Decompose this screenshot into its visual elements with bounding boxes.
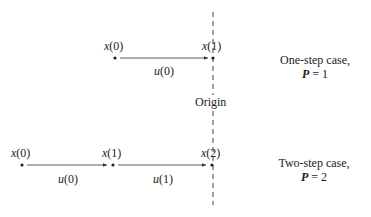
label-x1-two-step: x(1) xyxy=(102,147,121,159)
caption-one-step-line2: P = 1 xyxy=(260,67,370,81)
label-x0-one-step: x(0) xyxy=(104,40,123,52)
point-x1-one-step xyxy=(211,56,214,59)
caption-two-step-line2: P = 2 xyxy=(259,170,369,184)
label-u0-two-step: u(0) xyxy=(58,173,78,185)
label-u0-one-step: u(0) xyxy=(154,65,174,77)
origin-label: Origin xyxy=(195,95,226,109)
caption-two-step: Two-step case, P = 2 xyxy=(259,156,369,184)
label-u1-two-step: u(1) xyxy=(153,173,173,185)
point-x0-two-step xyxy=(20,163,23,166)
point-x1-two-step xyxy=(111,163,114,166)
label-x1-one-step: x(1) xyxy=(202,40,221,52)
point-x2-two-step xyxy=(210,163,213,166)
point-x0-one-step xyxy=(113,56,116,59)
diagram-canvas xyxy=(0,0,371,217)
label-x2-two-step: x(2) xyxy=(201,147,220,159)
label-x0-two-step: x(0) xyxy=(11,147,30,159)
caption-two-step-line1: Two-step case, xyxy=(259,156,369,170)
caption-one-step-line1: One-step case, xyxy=(260,53,370,67)
caption-one-step: One-step case, P = 1 xyxy=(260,53,370,81)
